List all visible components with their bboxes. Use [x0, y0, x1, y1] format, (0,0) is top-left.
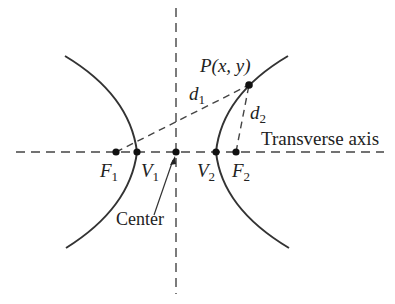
v1-label: V1 [141, 160, 159, 184]
center-point [172, 148, 179, 155]
d2-line [236, 85, 249, 152]
d2-label: d2 [250, 102, 266, 126]
arrow-head-icon [170, 156, 176, 165]
f1-label: F1 [99, 160, 118, 184]
d1-label: d1 [189, 83, 205, 107]
point-p-label: P(x, y) [199, 55, 251, 77]
f2-label: F2 [231, 160, 250, 184]
vertex-v2-point [212, 148, 219, 155]
point-p [245, 81, 253, 89]
transverse-axis-label: Transverse axis [261, 128, 379, 149]
focus-f1-point [112, 148, 119, 155]
vertex-v1-point [133, 148, 140, 155]
v2-label: V2 [197, 160, 215, 184]
hyperbola-diagram: P(x, y) d1 d2 Transverse axis F1 V1 V2 F… [0, 0, 395, 304]
focus-f2-point [232, 148, 239, 155]
center-label: Center [116, 209, 164, 229]
